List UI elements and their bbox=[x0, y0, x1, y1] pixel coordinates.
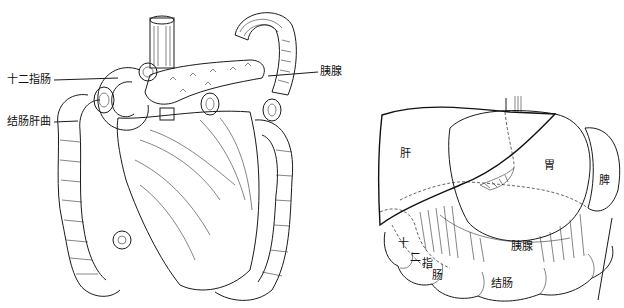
label-spleen: 脾 bbox=[599, 175, 610, 186]
right-upper-abdomen-drawing bbox=[379, 96, 620, 301]
label-pancreas-left: 胰腺 bbox=[320, 66, 342, 77]
label-colon: 结肠 bbox=[491, 278, 513, 289]
label-duodenum-char-4: 肠 bbox=[432, 270, 443, 281]
label-duodenum-char-2: 二 bbox=[410, 252, 421, 263]
label-pancreas-right: 胰腺 bbox=[511, 241, 533, 252]
label-duodenum-char-1: 十 bbox=[398, 238, 409, 249]
left-abdominal-organs-drawing bbox=[54, 13, 318, 301]
label-duodenum: 十二指肠 bbox=[7, 74, 51, 85]
label-duodenum-char-3: 指 bbox=[422, 258, 433, 269]
anatomy-illustration bbox=[0, 0, 624, 308]
label-stomach: 胃 bbox=[544, 160, 555, 171]
label-hepatic-flexure: 结肠肝曲 bbox=[7, 116, 51, 127]
label-liver: 肝 bbox=[400, 148, 411, 159]
